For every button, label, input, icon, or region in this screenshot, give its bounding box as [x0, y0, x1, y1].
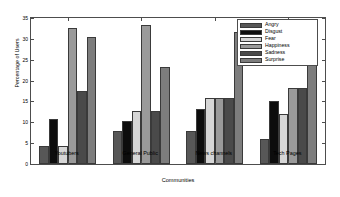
legend-item-surprise[interactable]: Surprise	[240, 57, 315, 64]
x-axis-tick-label-general-public: General Public	[123, 150, 158, 156]
chart-legend: AngryDisgustFearHappinessSadnessSurprise	[237, 19, 318, 66]
legend-label-sadness: Sadness	[265, 50, 285, 55]
legend-label-fear: Fear	[265, 36, 276, 41]
y-axis-tick-mark	[31, 81, 34, 82]
bar-angry-youtubers	[39, 146, 49, 164]
legend-label-angry: Angry	[265, 22, 279, 27]
y-axis-tick-mark	[322, 60, 325, 61]
x-axis-tick-mark	[288, 161, 289, 164]
y-axis-tick-label: 10	[10, 120, 28, 125]
x-axis-tick-label-news-channels: News channels	[195, 150, 232, 156]
bar-angry-news-channels	[186, 131, 196, 164]
x-axis-tick-mark	[68, 161, 69, 164]
bar-surprise-youtubers	[87, 37, 97, 164]
legend-item-disgust[interactable]: Disgust	[240, 29, 315, 36]
bar-disgust-general-public	[122, 121, 132, 164]
y-axis-tick-label: 15	[10, 99, 28, 104]
y-axis-tick-mark	[31, 39, 34, 40]
bar-group	[113, 18, 170, 164]
bar-surprise-general-public	[160, 67, 170, 164]
y-axis-tick-label: 35	[10, 16, 28, 21]
y-axis-tick-mark	[31, 60, 34, 61]
bar-happiness-general-public	[141, 25, 151, 164]
legend-swatch-happiness	[240, 44, 262, 49]
bar-disgust-youtubers	[49, 119, 59, 164]
y-axis-tick-label: 0	[10, 162, 28, 167]
x-axis-tick-mark	[141, 161, 142, 164]
legend-label-disgust: Disgust	[265, 29, 282, 34]
x-axis-tick-mark	[68, 18, 69, 21]
y-axis-tick-mark	[322, 18, 325, 19]
y-axis-tick-mark	[322, 164, 325, 165]
x-axis-tick-label-tech-pages: Tech Pages	[273, 150, 301, 156]
y-axis-tick-mark	[31, 143, 34, 144]
y-axis-tick-label: 20	[10, 78, 28, 83]
legend-label-surprise: Surprise	[265, 57, 284, 62]
legend-label-happiness: Happiness	[265, 43, 290, 48]
legend-swatch-sadness	[240, 51, 262, 56]
x-axis-tick-mark	[215, 18, 216, 21]
y-axis-tick-mark	[322, 101, 325, 102]
x-axis-tick-mark	[215, 161, 216, 164]
y-axis-tick-mark	[31, 122, 34, 123]
y-axis-tick-mark	[31, 101, 34, 102]
bar-group	[39, 18, 96, 164]
legend-swatch-angry	[240, 23, 262, 28]
y-axis-tick-label: 5	[10, 141, 28, 146]
y-axis-tick-mark	[322, 143, 325, 144]
y-axis-tick-mark	[322, 81, 325, 82]
y-axis-tick-label: 25	[10, 57, 28, 62]
x-axis-tick-label-youtubers: Youtubers	[55, 150, 79, 156]
legend-swatch-surprise	[240, 58, 262, 63]
bar-angry-tech-pages	[260, 139, 270, 164]
y-axis-tick-mark	[31, 18, 34, 19]
x-axis-title: Communities	[30, 177, 326, 183]
bar-fear-tech-pages	[279, 114, 289, 164]
y-axis-tick-mark	[322, 39, 325, 40]
legend-swatch-fear	[240, 37, 262, 42]
y-axis-tick-mark	[322, 122, 325, 123]
bar-group	[186, 18, 243, 164]
y-axis-tick-label: 30	[10, 36, 28, 41]
bar-chart-figure: Percentage of Users 05101520253035 Commu…	[0, 0, 340, 197]
bar-happiness-youtubers	[68, 28, 78, 164]
y-axis-tick-mark	[31, 164, 34, 165]
x-axis-tick-mark	[141, 18, 142, 21]
bar-angry-general-public	[113, 131, 123, 164]
legend-swatch-disgust	[240, 30, 262, 35]
